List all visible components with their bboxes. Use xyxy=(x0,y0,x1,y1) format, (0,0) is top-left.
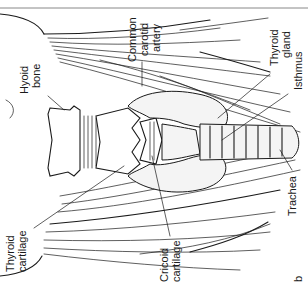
chin-curve xyxy=(6,100,13,118)
hyoid-membrane-lines xyxy=(84,116,96,168)
panel-letter: b xyxy=(292,276,304,282)
label-trachea: Trachea xyxy=(286,175,298,216)
label-thyroid-gland: Thyroid gland xyxy=(268,26,292,66)
label-isthmus: Isthmus xyxy=(292,51,304,90)
hyoid-bone-shape xyxy=(48,106,80,176)
label-hyoid-bone: Hyoid bone xyxy=(18,63,42,94)
leader-thyroid-gland xyxy=(218,74,270,118)
neck-illustration: Hyoid bone Common carotid artery Thyroid… xyxy=(0,0,308,283)
label-cricoid-cartilage: Cricoid cartilage xyxy=(158,240,182,282)
trachea-shape xyxy=(200,124,299,160)
thyroid-isthmus-shape xyxy=(162,124,200,160)
anatomy-figure: Hyoid bone Common carotid artery Thyroid… xyxy=(0,0,308,283)
thyroid-cartilage-shape xyxy=(96,108,140,174)
cricoid-cartilage-shape xyxy=(140,118,162,164)
label-thyroid-cartilage: Thyroid cartilage xyxy=(4,230,28,272)
neck-outline-upper xyxy=(0,14,44,34)
